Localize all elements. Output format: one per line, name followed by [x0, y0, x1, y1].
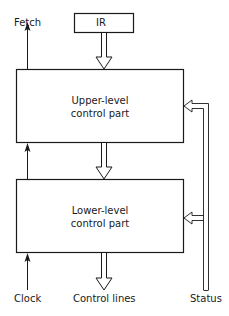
- upper-to-lower-arrow: [96, 143, 112, 179]
- ir-to-upper-arrow: [96, 33, 112, 69]
- ir-label: IR: [96, 17, 106, 29]
- lower-box-line2: control part: [16, 217, 184, 230]
- status-label: Status: [190, 293, 222, 305]
- status-to-lower-arrow-icon: [184, 212, 192, 224]
- lower-box-label: Lower-level control part: [16, 204, 184, 230]
- fetch-label: Fetch: [14, 17, 41, 29]
- status-to-upper-arrow-icon: [184, 100, 192, 112]
- lower-box-line1: Lower-level: [16, 204, 184, 217]
- upper-box-line2: control part: [16, 107, 184, 120]
- clock-label: Clock: [14, 293, 41, 305]
- upper-box-label: Upper-level control part: [16, 94, 184, 120]
- upper-box-line1: Upper-level: [16, 94, 184, 107]
- control-lines-arrow: [96, 253, 112, 290]
- control-lines-label: Control lines: [73, 293, 136, 305]
- diagram-canvas: [0, 0, 229, 316]
- status-bus: [192, 104, 209, 291]
